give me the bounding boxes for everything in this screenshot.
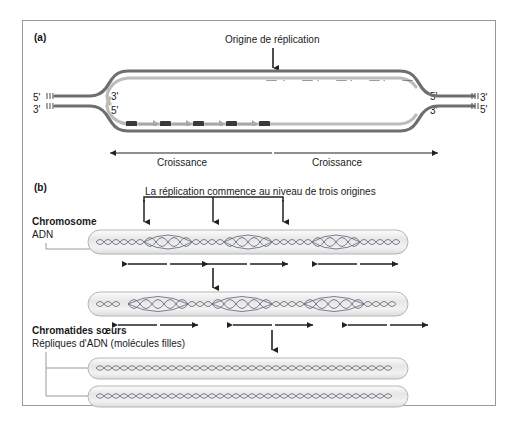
label-left-top-end: 5' bbox=[33, 92, 40, 104]
label-fork-right-bottom: 3' bbox=[430, 105, 437, 117]
dna-label: ADN bbox=[32, 229, 53, 241]
panel-b-title: La réplication commence au niveau de tro… bbox=[145, 186, 376, 198]
chromosome-label: Chromosome bbox=[32, 216, 96, 228]
panel-a-title: Origine de réplication bbox=[225, 34, 320, 46]
replication-figure: (a) Origine de réplication 5' 3' 3' 5' 5… bbox=[0, 0, 517, 422]
label-left-bottom-end: 3' bbox=[33, 104, 40, 116]
label-fork-left-top: 3' bbox=[111, 91, 118, 103]
label-right-top-end: 3' bbox=[480, 92, 487, 104]
label-fork-right-top: 5' bbox=[430, 91, 437, 103]
panel-b-label: (b) bbox=[34, 182, 47, 193]
growth-label-right: Croissance bbox=[312, 157, 362, 169]
panel-a-label: (a) bbox=[34, 32, 46, 43]
sister-chromatids-label: Chromatides sœurs bbox=[32, 325, 126, 337]
label-right-bottom-end: 5' bbox=[480, 104, 487, 116]
growth-label-left: Croissance bbox=[157, 157, 207, 169]
dna-replicas-label: Répliques d'ADN (molécules filles) bbox=[32, 338, 185, 350]
label-fork-left-bottom: 5' bbox=[111, 105, 118, 117]
